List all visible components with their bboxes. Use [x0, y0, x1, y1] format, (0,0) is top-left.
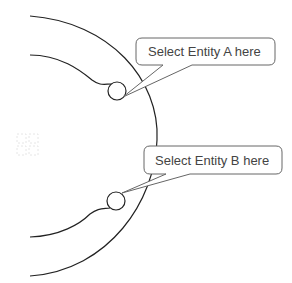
upper-inner-curve — [30, 55, 112, 84]
callout-entity-b: Select Entity B here — [122, 146, 282, 193]
callout-entity-b-label: Select Entity B here — [155, 153, 269, 168]
entity-b-knob[interactable] — [107, 192, 125, 210]
grid-icon — [17, 134, 38, 155]
callout-entity-a-label: Select Entity A here — [148, 44, 261, 59]
entity-selection-diagram: Select Entity A here Select Entity B her… — [0, 0, 292, 283]
lower-inner-curve — [30, 208, 110, 237]
